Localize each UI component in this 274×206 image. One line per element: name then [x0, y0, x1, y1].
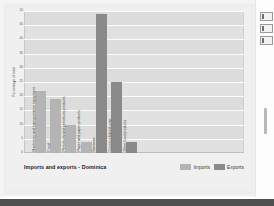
bar[interactable] [81, 142, 92, 153]
y-axis-tick-label: 0 [15, 151, 23, 154]
chart-footer: Imports and exports - Dominica ImportsEx… [24, 160, 244, 174]
screen: Percentage of total 05101520253035404550… [0, 0, 274, 206]
x-axis-category-label: Food [47, 143, 51, 151]
bar[interactable] [96, 14, 107, 153]
x-axis-category-label: Machinery and transportation equipment [32, 87, 36, 151]
x-axis-category-label: Paper and paper products [78, 110, 82, 151]
legend-label: Exports [227, 164, 244, 170]
panel-icon[interactable] [260, 12, 273, 21]
y-axis-tick-labels: 05101520253035404550 [15, 11, 23, 153]
y-axis-tick-label: 30 [15, 66, 23, 69]
chart-legend: ImportsExports [180, 164, 244, 170]
chart-title: Imports and exports - Dominica [24, 164, 106, 170]
plot-area: Machinery and transportation equipmentFo… [24, 11, 244, 153]
y-axis-tick-label: 5 [15, 137, 23, 140]
edge-toolbar [255, 0, 274, 197]
y-axis-tick-label: 50 [15, 9, 23, 12]
y-axis-tick-label: 10 [15, 123, 23, 126]
legend-swatch [214, 164, 225, 170]
x-axis-category-label: Coconut-based soap [108, 118, 112, 151]
x-axis-category-label: Petroleum and petroleum products [62, 96, 66, 151]
bar[interactable] [65, 125, 76, 153]
y-axis-tick-label: 35 [15, 52, 23, 55]
y-axis-tick-label: 20 [15, 95, 23, 98]
bar[interactable] [50, 99, 61, 153]
legend-item[interactable]: Imports [180, 164, 210, 170]
y-axis-tick-label: 45 [15, 24, 23, 27]
x-axis-category-label: Other food products [123, 119, 127, 151]
x-axis-category-label: Bananas [93, 137, 97, 151]
y-axis-tick-label: 40 [15, 38, 23, 41]
legend-swatch [180, 164, 191, 170]
legend-item[interactable]: Exports [214, 164, 244, 170]
bar[interactable] [111, 82, 122, 153]
panel-icon[interactable] [260, 24, 273, 33]
legend-label: Imports [193, 164, 210, 170]
y-axis-tick-label: 15 [15, 109, 23, 112]
bar[interactable] [126, 142, 137, 153]
bottom-status-bar [0, 199, 274, 206]
bar[interactable] [35, 91, 46, 153]
y-axis-tick-label: 25 [15, 80, 23, 83]
panel-icon[interactable] [260, 36, 273, 45]
scrollbar-thumb[interactable] [264, 108, 267, 134]
bar-series-group: Machinery and transportation equipmentFo… [24, 11, 244, 153]
